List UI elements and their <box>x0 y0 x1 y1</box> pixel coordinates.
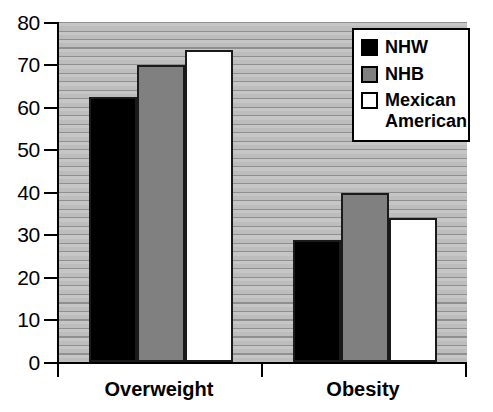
legend-entry-nhw: NHW <box>361 37 462 58</box>
legend-entry-mexican-american: Mexican American <box>361 90 462 131</box>
x-tick-mark <box>465 364 467 377</box>
legend-label: NHB <box>385 64 424 85</box>
bar-chart: 80 70 60 50 40 30 20 10 0 Overweight Obe… <box>0 0 493 412</box>
x-category-label-obesity: Obesity <box>326 379 399 400</box>
x-tick-mark <box>261 364 263 377</box>
x-tick-mark <box>57 364 59 377</box>
legend-label: Mexican American <box>385 90 467 131</box>
white-swatch-icon <box>361 92 378 109</box>
gray-swatch-icon <box>361 66 378 83</box>
legend-label: NHW <box>385 37 428 58</box>
x-category-label-overweight: Overweight <box>105 379 214 400</box>
black-swatch-icon <box>361 39 378 56</box>
legend-entry-nhb: NHB <box>361 64 462 85</box>
legend: NHW NHB Mexican American <box>352 28 470 142</box>
